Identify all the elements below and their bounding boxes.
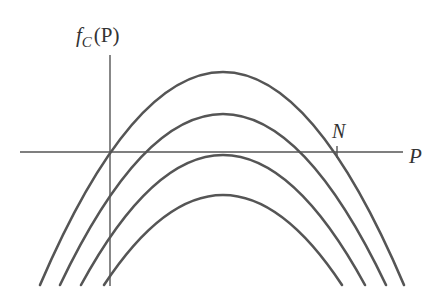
parabola-curves — [40, 72, 404, 285]
y-axis-label: fC(P) — [76, 23, 120, 50]
point-n-label: N — [331, 120, 347, 142]
x-axis-label: P — [408, 144, 422, 168]
curve-4 — [104, 195, 342, 285]
curve-3 — [81, 155, 365, 285]
curve-1 — [40, 72, 404, 285]
function-graph: fC(P) P N — [0, 0, 446, 304]
